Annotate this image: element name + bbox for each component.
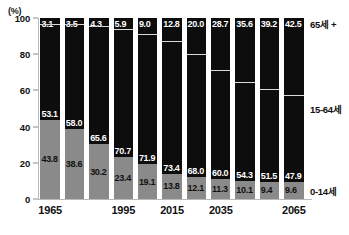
- bar-value-15-64: 54.3: [236, 171, 252, 180]
- bar-value-15-64: 47.9: [285, 172, 301, 181]
- bar-column: 5.970.723.4: [114, 18, 133, 199]
- bar-segment-0-14: 9.6: [284, 182, 303, 199]
- bar-segment-15-64: 70.7: [114, 29, 133, 157]
- bar-value-65-plus: 4.3: [90, 20, 102, 29]
- bar-value-15-64: 51.5: [261, 172, 277, 181]
- bar-value-0-14: 11.3: [212, 184, 228, 193]
- bar-column: 20.068.012.1: [187, 18, 206, 199]
- y-tick-label: 60: [20, 85, 30, 96]
- bar-segment-0-14: 38.6: [65, 129, 84, 199]
- bar-value-0-14: 43.8: [41, 155, 57, 164]
- y-tick-label: 40: [20, 121, 30, 132]
- x-tick-label: 1965: [38, 204, 62, 216]
- bar-value-0-14: 12.1: [188, 184, 204, 193]
- bar-value-65-plus: 3.5: [66, 20, 78, 29]
- bar-segment-15-64: 60.0: [211, 70, 230, 179]
- bar-segment-0-14: 9.4: [260, 182, 279, 199]
- x-tick-label: 2065: [282, 204, 306, 216]
- legend-label-65-plus: 65세 +: [310, 17, 336, 31]
- bar-value-65-plus: 28.7: [212, 20, 228, 29]
- bar-segment-15-64: 47.9: [284, 95, 303, 182]
- segment-divider: [284, 95, 303, 96]
- y-tick-label: 100: [15, 13, 30, 24]
- bar-value-15-64: 65.6: [90, 134, 106, 143]
- y-tick-label: 80: [20, 49, 30, 60]
- bar-column: 4.365.630.2: [89, 18, 108, 199]
- bar-value-0-14: 9.6: [285, 186, 297, 195]
- bar-segment-0-14: 12.1: [187, 177, 206, 199]
- bar-segment-65-plus: 5.9: [114, 18, 133, 29]
- bar-value-15-64: 70.7: [115, 147, 131, 156]
- bar-segment-0-14: 11.3: [211, 179, 230, 199]
- bar-segment-0-14: 43.8: [40, 120, 59, 199]
- bar-value-0-14: 10.1: [236, 185, 252, 194]
- bar-segment-65-plus: 35.6: [235, 18, 254, 82]
- x-axis-line: [38, 199, 312, 200]
- bar-column: 35.654.310.1: [235, 18, 254, 199]
- bar-segment-15-64: 53.1: [40, 24, 59, 120]
- y-tick-label: 20: [20, 157, 30, 168]
- bar-segment-65-plus: 28.7: [211, 18, 230, 70]
- bar-column: 39.251.59.4: [260, 18, 279, 199]
- bar-value-0-14: 23.4: [115, 173, 131, 182]
- segment-divider: [235, 82, 254, 83]
- bar-segment-15-64: 71.9: [138, 34, 157, 164]
- bar-column: 12.873.413.8: [162, 18, 181, 199]
- segment-divider: [187, 54, 206, 55]
- bar-value-0-14: 30.2: [90, 167, 106, 176]
- bar-segment-65-plus: 39.2: [260, 18, 279, 89]
- x-tick-label: 2015: [160, 204, 184, 216]
- bar-value-0-14: 38.6: [66, 160, 82, 169]
- y-axis: 100806040200: [0, 0, 34, 235]
- bar-value-0-14: 9.4: [261, 186, 273, 195]
- bar-segment-0-14: 23.4: [114, 157, 133, 199]
- segment-divider: [162, 41, 181, 42]
- bar-segment-15-64: 68.0: [187, 54, 206, 177]
- bar-value-15-64: 58.0: [66, 119, 82, 128]
- bar-value-65-plus: 12.8: [163, 20, 179, 29]
- bar-value-15-64: 60.0: [212, 169, 228, 178]
- bar-segment-65-plus: 4.3: [89, 18, 108, 26]
- bar-value-65-plus: 39.2: [261, 20, 277, 29]
- bar-segment-65-plus: 20.0: [187, 18, 206, 54]
- bar-value-15-64: 53.1: [41, 110, 57, 119]
- bar-segment-0-14: 10.1: [235, 181, 254, 199]
- y-tick-label: 0: [25, 194, 30, 205]
- x-tick-label: 1995: [111, 204, 135, 216]
- bar-column: 28.760.011.3: [211, 18, 230, 199]
- bar-segment-65-plus: 9.0: [138, 18, 157, 34]
- x-tick-label: 2035: [209, 204, 233, 216]
- bar-segment-15-64: 58.0: [65, 24, 84, 129]
- legend-label-0-14: 0-14세: [310, 184, 337, 198]
- bar-column: 3.558.038.6: [65, 18, 84, 199]
- bar-segment-15-64: 54.3: [235, 82, 254, 180]
- bar-column: 9.071.919.1: [138, 18, 157, 199]
- bar-value-65-plus: 42.5: [285, 20, 301, 29]
- bar-value-15-64: 73.4: [163, 164, 179, 173]
- bar-segment-65-plus: 12.8: [162, 18, 181, 41]
- bar-value-15-64: 71.9: [139, 154, 155, 163]
- bar-value-65-plus: 3.1: [41, 20, 53, 29]
- plot-area: 3.153.143.83.558.038.64.365.630.25.970.7…: [38, 18, 306, 199]
- bar-value-0-14: 13.8: [163, 182, 179, 191]
- segment-divider: [211, 70, 230, 71]
- bar-segment-0-14: 19.1: [138, 164, 157, 199]
- bar-segment-15-64: 65.6: [89, 26, 108, 145]
- stacked-bar-chart: (%) 100806040200 3.153.143.83.558.038.64…: [0, 0, 349, 235]
- bar-value-0-14: 19.1: [139, 177, 155, 186]
- bar-value-65-plus: 9.0: [139, 20, 151, 29]
- legend-label-15-64: 15-64세: [310, 102, 342, 116]
- bar-value-65-plus: 5.9: [115, 20, 127, 29]
- bar-segment-0-14: 30.2: [89, 144, 108, 199]
- bar-column: 42.547.99.6: [284, 18, 303, 199]
- bar-segment-15-64: 73.4: [162, 41, 181, 174]
- bar-segment-15-64: 51.5: [260, 89, 279, 182]
- bar-segment-65-plus: 42.5: [284, 18, 303, 95]
- bar-segment-0-14: 13.8: [162, 174, 181, 199]
- segment-divider: [260, 89, 279, 90]
- bar-value-65-plus: 20.0: [188, 20, 204, 29]
- bar-value-65-plus: 35.6: [236, 20, 252, 29]
- bar-value-15-64: 68.0: [188, 167, 204, 176]
- bar-column: 3.153.143.8: [40, 18, 59, 199]
- segment-divider: [138, 34, 157, 35]
